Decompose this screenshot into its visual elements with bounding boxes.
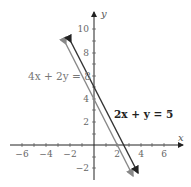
y-tick-label: 2 <box>83 117 89 127</box>
x-tick-label: −6 <box>15 149 29 159</box>
x-tick-label: −2 <box>63 149 76 159</box>
x-tick-label: 2 <box>114 149 120 159</box>
chart: −6 −4 −2 2 4 6 10 8 4 2 −2 y x 4x + 2y =… <box>0 0 191 187</box>
equation-label-dark: 2x + y = 5 <box>114 108 173 120</box>
equation-label-gray: 4x + 2y = 8 <box>28 70 91 82</box>
y-tick-label: 4 <box>83 94 89 104</box>
x-axis-label: x <box>178 132 184 143</box>
y-axis-label: y <box>100 8 107 19</box>
y-tick-label: 10 <box>78 24 90 34</box>
x-tick-label: 6 <box>161 149 167 159</box>
x-tick-label: −4 <box>39 149 53 159</box>
y-tick-label: 8 <box>83 48 89 58</box>
y-tick-label: −2 <box>76 163 89 173</box>
x-tick-label: 4 <box>138 149 144 159</box>
